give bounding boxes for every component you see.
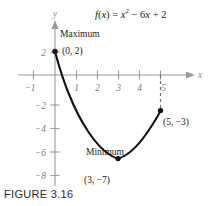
- parabola-curve: [55, 51, 161, 158]
- annotation-point-0-2: (0, 2): [62, 47, 83, 57]
- point-marker-5-neg3: [158, 108, 163, 113]
- y-axis-arrowhead: [52, 20, 59, 29]
- x-tick-label-4: 4: [137, 83, 142, 93]
- y-tick-label-neg8: −8: [35, 171, 46, 181]
- annotation-point-5-neg3: (5, −3): [163, 118, 189, 128]
- x-axis-label: x: [197, 70, 203, 80]
- x-tick-label-neg1: −1: [24, 83, 35, 93]
- y-tick-label-neg2: −2: [35, 101, 46, 111]
- y-axis-label: y: [52, 9, 58, 19]
- annotation-minimum: Minimum: [86, 148, 124, 158]
- annotation-maximum: Maximum: [60, 30, 100, 40]
- x-tick-label-3: 3: [115, 83, 121, 93]
- y-tick-label-neg4: −4: [35, 124, 46, 134]
- function-equation: f(x) = x2 − 6x + 2: [95, 8, 166, 20]
- x-tick-label-1: 1: [74, 83, 79, 93]
- equation-middle: − 6: [129, 9, 145, 20]
- y-tick-label-neg6: −6: [35, 148, 46, 158]
- x-tick-label-2: 2: [95, 83, 100, 93]
- x-tick-label-5: 5: [161, 83, 166, 93]
- y-tick-label-2: 2: [41, 48, 46, 58]
- annotation-point-3-neg7: (3, −7): [84, 176, 110, 186]
- x-axis-arrowhead: [186, 72, 195, 79]
- figure-caption: FIGURE 3.16: [4, 188, 73, 200]
- figure-container: −1 1 2 3 4 5 2 −2 −4 −6 −8 x y f(x) = x2…: [0, 0, 214, 206]
- equation-tail: + 2: [150, 9, 166, 20]
- point-marker-0-2: [52, 49, 57, 54]
- equation-equals: =: [110, 9, 121, 20]
